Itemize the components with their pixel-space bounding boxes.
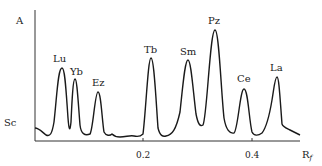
chart-canvas: A Rf 0.2 0.4 Sc Lu Yb Ez Tb Sm Pz Ce La	[0, 0, 322, 166]
x-tick-label-0.4: 0.4	[245, 150, 260, 160]
x-tick-label-0.2: 0.2	[136, 150, 150, 160]
chromatogram-chart: A Rf 0.2 0.4 Sc Lu Yb Ez Tb Sm Pz Ce La	[0, 0, 322, 166]
peak-label-lu: Lu	[53, 53, 67, 64]
peak-label-sm: Sm	[180, 46, 197, 57]
chromatogram-trace	[35, 30, 300, 137]
peak-label-yb: Yb	[69, 66, 83, 77]
x-axis-label: Rf	[302, 149, 314, 162]
y-axis-label: A	[15, 15, 24, 26]
peak-label-tb: Tb	[144, 44, 157, 55]
peak-label-ez: Ez	[92, 77, 105, 88]
peak-label-pz: Pz	[208, 15, 220, 26]
peak-label-sc: Sc	[4, 117, 17, 128]
peak-label-ce: Ce	[237, 73, 251, 84]
peak-label-la: La	[270, 62, 283, 73]
